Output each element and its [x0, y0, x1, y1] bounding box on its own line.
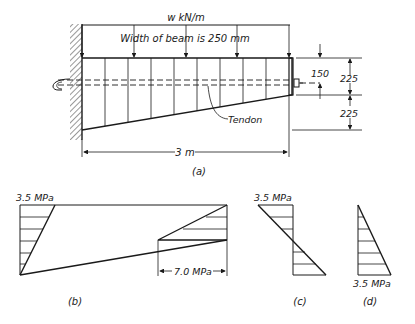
- dim-225-top: 225: [340, 73, 358, 84]
- d-stress: 3.5 MPa: [353, 278, 391, 289]
- b-top-stress: 3.5 MPa: [16, 192, 54, 203]
- tendon-leader: [208, 86, 228, 119]
- diagram-canvas: w kN/m Width of beam is 250 mm Tendon 15…: [0, 0, 415, 324]
- fixed-wall-hatch: [70, 24, 82, 140]
- dim-150: 150: [311, 68, 329, 79]
- dim-225-bottom: 225: [340, 108, 358, 119]
- load-label: w kN/m: [167, 12, 205, 23]
- tendon-hook: [53, 79, 70, 90]
- figure-c-stress: [258, 205, 326, 275]
- tendon-label: Tendon: [228, 114, 262, 125]
- caption-a: (a): [192, 166, 206, 177]
- beam-width-note: Width of beam is 250 mm: [120, 33, 250, 44]
- caption-c: (c): [293, 296, 306, 307]
- figure-d-stress: [358, 205, 391, 275]
- c-stress: 3.5 MPa: [254, 192, 292, 203]
- caption-d: (d): [363, 296, 377, 307]
- caption-b: (b): [68, 296, 82, 307]
- anchor-nut: [294, 79, 299, 87]
- span-label: 3 m: [175, 147, 195, 158]
- b-bottom-stress: 7.0 MPa: [174, 266, 212, 277]
